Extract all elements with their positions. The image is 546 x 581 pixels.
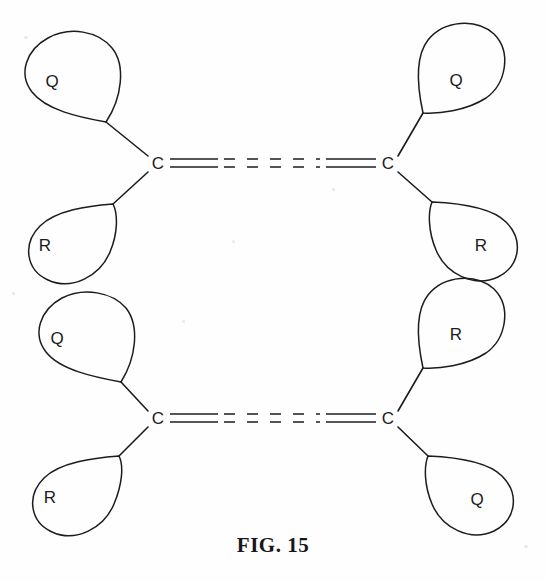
- bond-line-upper-left: [121, 382, 148, 411]
- lobe-outline-path: [418, 278, 504, 368]
- lobe-label-r-lower-right: R: [475, 236, 487, 255]
- lobe-outline-path: [429, 202, 517, 281]
- substituent-lobe-upper-right: Q: [418, 23, 504, 113]
- lobe-label-q-lower-right: Q: [470, 490, 483, 509]
- substituent-lobe-lower-right: R: [429, 202, 517, 281]
- double-bond-upper-structure: [170, 159, 376, 167]
- lobe-label-q-upper-left: Q: [45, 72, 58, 91]
- figure-caption: FIG. 15: [0, 533, 546, 558]
- bond-line-lower-right: [398, 172, 432, 202]
- lobe-label-q-upper-left: Q: [50, 329, 63, 348]
- bond-line-upper-right: [398, 113, 423, 156]
- chemical-structure-diagram: Q R Q R C C: [0, 0, 546, 581]
- substituent-lobe-upper-left: Q: [25, 31, 121, 122]
- substituent-lobe-lower-left: R: [29, 204, 117, 284]
- lobe-label-r-lower-left: R: [39, 236, 51, 255]
- bond-line-lower-left: [113, 172, 148, 204]
- double-bond-lower-structure: [170, 414, 376, 422]
- lobe-outline-path: [418, 23, 504, 113]
- bond-line-upper-left: [106, 122, 148, 156]
- bond-line-lower-left: [119, 427, 148, 456]
- substituent-lobe-upper-right: R: [418, 278, 504, 368]
- lobe-label-r-upper-right: R: [450, 325, 462, 344]
- bond-line-upper-right: [398, 368, 423, 411]
- substituent-lobe-lower-left: R: [33, 456, 122, 536]
- lobe-outline-path: [25, 31, 121, 122]
- lower-structure: Q R R Q C C: [33, 278, 514, 535]
- atom-label-carbon-right: C: [382, 154, 394, 173]
- atom-label-carbon-right: C: [382, 409, 394, 428]
- substituent-lobe-upper-left: Q: [39, 292, 135, 382]
- bond-line-lower-right: [398, 427, 428, 456]
- lobe-label-q-upper-right: Q: [449, 71, 462, 90]
- upper-structure: Q R Q R C C: [25, 23, 517, 283]
- atom-label-carbon-left: C: [152, 409, 164, 428]
- lobe-outline-path: [425, 456, 513, 535]
- atom-label-carbon-left: C: [152, 154, 164, 173]
- lobe-label-r-lower-left: R: [44, 488, 56, 507]
- figure-container: Q R Q R C C: [0, 0, 546, 581]
- substituent-lobe-lower-right: Q: [425, 456, 513, 535]
